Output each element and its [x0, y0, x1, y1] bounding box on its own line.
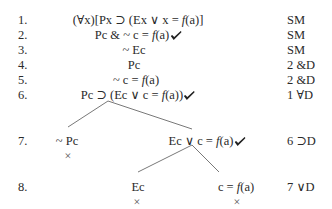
left-branch-formula: Ec	[131, 180, 144, 194]
justification: SM	[287, 28, 305, 42]
line-number: 1.	[18, 13, 27, 27]
line-number: 2.	[18, 28, 27, 42]
justification: 2 &D	[287, 73, 315, 87]
right-branch-formula: Ec ∨ c = f(a)	[169, 134, 246, 148]
closed-branch-mark: ×	[234, 196, 241, 208]
checkmark-icon	[184, 91, 195, 100]
line-number: 7.	[18, 134, 27, 148]
line-number: 6.	[18, 88, 27, 102]
left-branch-formula: ~ Pc	[56, 134, 78, 148]
right-branch-formula: c = f(a)	[218, 180, 254, 194]
formula: ~ c = f(a)	[113, 73, 159, 87]
line-number: 8.	[18, 180, 27, 194]
closed-branch-mark: ×	[65, 150, 72, 162]
line-number: 3.	[18, 43, 27, 57]
formula: Pc ⊃ (Ec ∨ c = f(a))	[81, 88, 195, 102]
closed-branch-mark: ×	[134, 196, 141, 208]
justification: 2 &D	[287, 58, 315, 72]
formula: ~ Ec	[122, 43, 145, 57]
formula: Pc & ~ c = f(a)	[95, 28, 182, 42]
line-number: 5.	[18, 73, 27, 87]
line-number: 4.	[18, 58, 27, 72]
checkmark-icon	[234, 137, 245, 146]
formula: Pc	[128, 58, 141, 72]
checkmark-icon	[170, 31, 181, 40]
formula: (∀x)[Px ⊃ (Ex ∨ x = f(a)]	[73, 13, 204, 27]
justification: SM	[287, 43, 305, 57]
justification: SM	[287, 13, 305, 27]
justification: 6 ⊃D	[287, 134, 316, 148]
justification: 7 ∨D	[287, 180, 315, 194]
justification: 1 ∀D	[287, 88, 313, 102]
